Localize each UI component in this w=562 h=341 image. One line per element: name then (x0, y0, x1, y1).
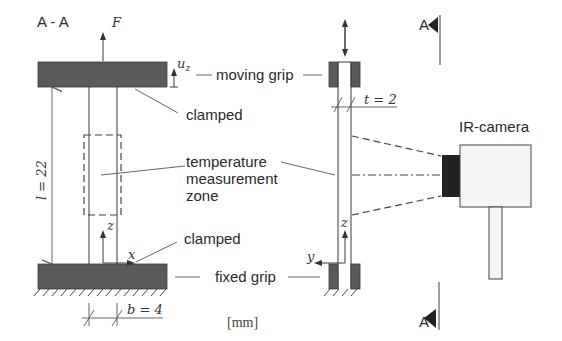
clamped-top-leader (135, 89, 178, 113)
ir-camera: IR-camera (442, 118, 531, 279)
front-view: A - A F uz l = 22 (34, 13, 190, 326)
length-label: l = 22 (34, 160, 49, 200)
annotations: moving grip clamped temperature measurem… (175, 66, 335, 330)
camera-view-upper-line (352, 136, 441, 156)
camera-body (460, 145, 531, 207)
side-y-axis-label: y (306, 249, 315, 264)
section-marker-top-label: A (419, 16, 429, 33)
camera-view-lower-line (352, 196, 441, 215)
units-label: [mm] (227, 315, 258, 330)
clamped-top-label: clamped (186, 106, 243, 123)
side-top-jaw-left (329, 62, 338, 87)
moving-grip-label: moving grip (216, 66, 294, 83)
fixed-grip-label: fixed grip (215, 268, 276, 285)
clamped-bottom-label: clamped (184, 230, 241, 247)
tensile-test-diagram: A - A F uz l = 22 (0, 0, 562, 341)
section-title: A - A (37, 13, 69, 30)
z-axis-label: z (106, 218, 114, 233)
camera-stand (489, 207, 502, 279)
temperature-zone-label-1: temperature (186, 153, 267, 170)
temperature-zone-side-leader (281, 162, 335, 175)
side-bottom-jaw-left (329, 264, 338, 289)
width-label: b = 4 (127, 302, 163, 317)
camera-label: IR-camera (459, 118, 530, 135)
temperature-zone-label-3: zone (186, 187, 219, 204)
side-top-jaw-right (351, 62, 360, 87)
temperature-zone-label-2: measurement (186, 170, 279, 187)
thickness-label: t = 2 (364, 92, 397, 107)
side-ground-hatch-icon (324, 289, 357, 296)
section-arrow-top-icon (428, 17, 438, 33)
side-z-axis-label: z (340, 215, 348, 230)
temperature-zone-leader (101, 166, 185, 175)
side-bottom-jaw-right (351, 264, 360, 289)
clamped-bottom-leader (136, 242, 177, 262)
moving-grip-block (38, 62, 167, 87)
camera-lens (442, 155, 460, 197)
displacement-label: u (177, 56, 185, 71)
ground-hatch-icon (34, 289, 166, 296)
svg-text:uz: uz (177, 56, 190, 73)
displacement-subscript: z (184, 63, 190, 73)
x-axis-label: x (128, 247, 136, 262)
fixed-grip-block (38, 264, 167, 289)
force-label: F (111, 15, 122, 30)
